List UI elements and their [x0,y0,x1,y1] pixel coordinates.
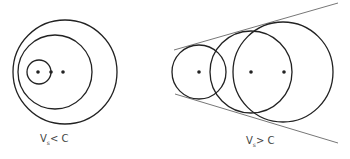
doppler-diagram: Vs< C Vs> C [0,0,350,159]
tangent-line [174,3,338,50]
source-dot [249,70,253,74]
source-dot [282,70,286,74]
source-dot [61,70,65,74]
source-dot [197,70,201,74]
source-dot [36,70,40,74]
label-subsonic: Vs< C [40,133,69,146]
label-supersonic: Vs> C [246,135,275,148]
source-dot [49,70,53,74]
wavefront-circle [13,20,117,124]
wavefront-circle [18,35,92,109]
